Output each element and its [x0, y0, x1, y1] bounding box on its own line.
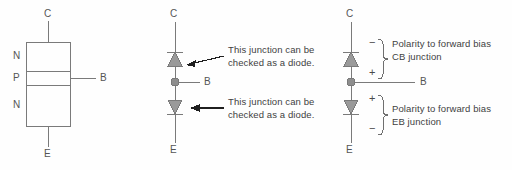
polarity-collector-label: C	[346, 8, 353, 20]
cb-diode-triangle	[168, 52, 182, 66]
block-collector-label: C	[44, 8, 51, 20]
block-layer-label-n-top: N	[13, 50, 20, 62]
upper-callout-arrow-head	[186, 60, 196, 67]
transistor-body-rect	[26, 42, 70, 126]
eb-sign-bottom: −	[369, 123, 376, 133]
diode-equivalent-group	[167, 22, 224, 143]
diode-base-label: B	[204, 76, 211, 88]
diode-emitter-label: E	[170, 144, 177, 156]
cb-sign-bottom: +	[369, 67, 376, 77]
eb-diode-triangle	[168, 100, 182, 114]
cb-polarity-note: Polarity to forward bias CB junction	[392, 38, 510, 63]
block-layer-label-p: P	[13, 72, 20, 84]
cb-sign-top: −	[369, 37, 376, 47]
base-node-dot	[171, 78, 179, 86]
diode-collector-label: C	[170, 8, 177, 20]
lower-junction-note: This junction can be checked as a diode.	[228, 96, 348, 121]
npn-block-group	[26, 21, 96, 147]
figure-vector-graphics	[0, 0, 512, 170]
eb-sign-top: +	[369, 93, 376, 103]
block-layer-label-n-bottom: N	[13, 99, 20, 111]
polarity-base-label: B	[420, 76, 427, 88]
polarity-emitter-label: E	[346, 144, 353, 156]
lower-callout-arrow-head	[190, 104, 200, 112]
cb-brace	[378, 39, 388, 79]
eb-polarity-note: Polarity to forward bias EB junction	[392, 103, 510, 128]
block-base-label: B	[100, 72, 107, 84]
block-emitter-label: E	[44, 148, 51, 160]
eb-brace	[378, 95, 388, 135]
transistor-junction-figure: C N P N B E C B E This junction can be c…	[0, 0, 512, 170]
upper-junction-note: This junction can be checked as a diode.	[228, 44, 348, 69]
polarity-base-node-dot	[347, 78, 355, 86]
